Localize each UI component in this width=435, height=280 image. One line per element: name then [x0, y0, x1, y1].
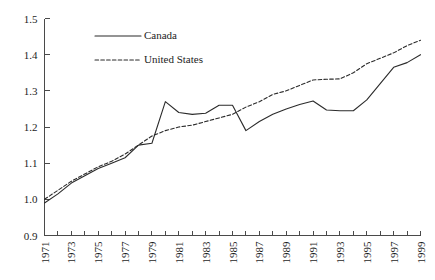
y-tick-label: 1.0 — [24, 193, 38, 205]
x-tick-label: 1975 — [92, 241, 104, 264]
series-line-united-states — [45, 40, 421, 199]
x-tick-label: 1999 — [415, 241, 427, 264]
x-tick-label: 1973 — [65, 241, 77, 264]
x-tick-label: 1987 — [253, 241, 265, 264]
x-tick-label: 1985 — [227, 241, 239, 264]
x-tick-label: 1991 — [307, 242, 319, 264]
chart-figure: 0.91.01.11.21.31.41.5 197119731975197719… — [0, 0, 435, 280]
x-tick-label: 1993 — [334, 241, 346, 264]
line-chart: 0.91.01.11.21.31.41.5 197119731975197719… — [0, 0, 435, 280]
y-axis-ticks: 0.91.01.11.21.31.41.5 — [24, 13, 50, 242]
x-tick-label: 1995 — [361, 241, 373, 264]
y-tick-label: 1.4 — [24, 49, 38, 61]
y-tick-label: 1.3 — [24, 85, 38, 97]
series-line-canada — [45, 55, 421, 203]
y-tick-label: 1.2 — [24, 121, 38, 133]
x-tick-label: 1983 — [200, 241, 212, 264]
x-tick-label: 1981 — [173, 242, 185, 264]
legend-label-canada: Canada — [144, 29, 177, 41]
x-tick-label: 1989 — [280, 241, 292, 264]
y-tick-label: 0.9 — [24, 230, 38, 242]
legend-label-united-states: United States — [144, 53, 203, 65]
y-tick-label: 1.5 — [24, 13, 38, 25]
data-series — [45, 40, 421, 203]
axes — [45, 19, 421, 236]
x-tick-label: 1977 — [119, 241, 131, 264]
y-tick-label: 1.1 — [24, 157, 38, 169]
x-tick-label: 1997 — [388, 241, 400, 264]
chart-legend: CanadaUnited States — [95, 29, 203, 65]
x-tick-label: 1979 — [146, 241, 158, 264]
x-tick-label: 1971 — [39, 242, 51, 264]
